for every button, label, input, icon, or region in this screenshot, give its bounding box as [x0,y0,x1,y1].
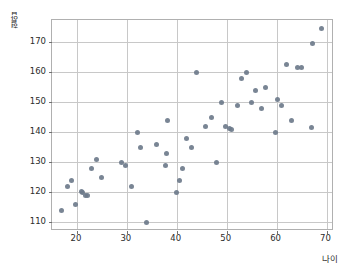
y-tick-label: 120 [30,187,46,196]
gridline-horizontal [52,102,332,103]
y-tick-label: 140 [30,127,46,136]
y-tick-mark [49,42,52,43]
x-tick-label: 50 [220,234,231,243]
y-tick-mark [49,132,52,133]
scatter-chart-figure: 혈압 110120130140150160170 203040506070 나이 [0,0,346,275]
y-tick-label: 130 [30,157,46,166]
x-tick-label: 40 [170,234,181,243]
y-tick-mark [49,72,52,73]
y-tick-mark [49,222,52,223]
scatter-point [144,220,149,225]
scatter-point [163,163,168,168]
gridline-horizontal [52,222,332,223]
scatter-point [138,145,143,150]
scatter-point [219,100,224,105]
scatter-point [279,103,284,108]
scatter-point [284,62,289,67]
plot-area [51,19,333,230]
scatter-point [203,124,208,129]
scatter-point [263,85,268,90]
scatter-point [235,103,240,108]
scatter-point [244,70,249,75]
x-tick-label: 30 [120,234,131,243]
y-tick-mark [49,192,52,193]
y-tick-mark [49,162,52,163]
gridline-horizontal [52,42,332,43]
scatter-point [259,106,264,111]
scatter-point [89,166,94,171]
scatter-point [249,100,254,105]
y-tick-mark [49,102,52,103]
gridline-vertical [327,20,328,229]
scatter-point [310,41,315,46]
y-axis-tick-labels: 110120130140150160170 [0,19,46,230]
scatter-point [253,88,258,93]
gridline-horizontal [52,192,332,193]
scatter-point [99,175,104,180]
scatter-point [319,26,324,31]
gridline-horizontal [52,162,332,163]
scatter-point [299,65,304,70]
y-tick-label: 160 [30,67,46,76]
scatter-point [209,115,214,120]
scatter-point [289,118,294,123]
x-tick-label: 70 [320,234,331,243]
y-tick-label: 150 [30,97,46,106]
scatter-point [165,118,170,123]
scatter-point [135,130,140,135]
scatter-point [184,136,189,141]
gridline-horizontal [52,132,332,133]
scatter-point [309,125,314,130]
gridline-vertical [277,20,278,229]
scatter-point [239,76,244,81]
x-axis-tick-labels: 203040506070 [51,230,333,246]
y-tick-label: 110 [30,217,46,226]
gridline-vertical [77,20,78,229]
scatter-point [85,193,90,198]
x-axis-label: 나이 [0,252,338,264]
scatter-point [154,142,159,147]
scatter-point [180,166,185,171]
scatter-point [177,178,182,183]
scatter-point [59,208,64,213]
scatter-point [164,151,169,156]
scatter-point [189,145,194,150]
gridline-vertical [127,20,128,229]
scatter-point [214,160,219,165]
scatter-point [129,184,134,189]
gridline-horizontal [52,72,332,73]
scatter-point [174,190,179,195]
scatter-point [194,70,199,75]
x-tick-label: 60 [270,234,281,243]
scatter-point [65,184,70,189]
y-tick-label: 170 [30,37,46,46]
scatter-point [69,178,74,183]
gridline-vertical [177,20,178,229]
x-tick-label: 20 [71,234,82,243]
